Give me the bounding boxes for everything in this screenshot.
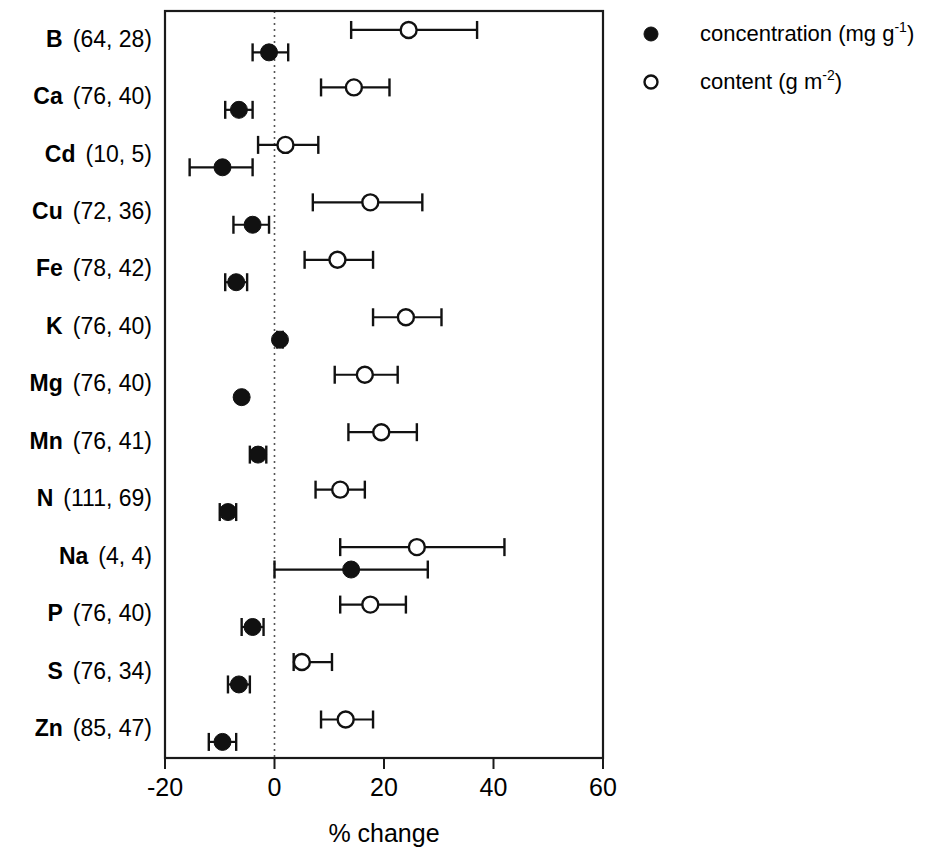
concentration-marker xyxy=(250,446,267,463)
category-count: (78, 42) xyxy=(73,255,152,281)
concentration-marker xyxy=(244,216,261,233)
legend-filled-circle-icon xyxy=(644,27,658,41)
category-symbol: Fe xyxy=(36,255,63,281)
category-symbol: Cu xyxy=(32,198,63,224)
x-tick-label: 40 xyxy=(480,773,508,801)
category-count: (111, 69) xyxy=(63,485,152,511)
concentration-marker xyxy=(230,676,247,693)
category-count: (76, 34) xyxy=(73,658,152,684)
category-label: Na(4, 4) xyxy=(59,543,152,569)
category-count: (10, 5) xyxy=(86,141,152,167)
concentration-marker xyxy=(219,504,236,521)
category-symbol: P xyxy=(47,600,62,626)
x-tick-label: 0 xyxy=(268,773,282,801)
content-marker xyxy=(329,252,345,268)
category-symbol: Cd xyxy=(45,141,76,167)
concentration-marker xyxy=(230,101,247,118)
x-tick-label: 20 xyxy=(370,773,398,801)
content-marker xyxy=(373,424,389,440)
category-label: Cu(72, 36) xyxy=(32,198,152,224)
concentration-marker xyxy=(214,733,231,750)
legend-label-main: concentration (mg g xyxy=(700,21,894,46)
category-symbol: Ca xyxy=(33,83,63,109)
category-count: (64, 28) xyxy=(73,26,152,52)
content-marker xyxy=(338,712,354,728)
concentration-row xyxy=(250,446,267,464)
legend-label-tail: ) xyxy=(907,21,914,46)
concentration-marker xyxy=(343,561,360,578)
category-label: Zn(85, 47) xyxy=(35,715,152,741)
concentration-marker xyxy=(261,44,278,61)
content-marker xyxy=(332,482,348,498)
content-marker xyxy=(398,309,414,325)
category-count: (72, 36) xyxy=(73,198,152,224)
category-count: (76, 40) xyxy=(73,600,152,626)
legend-label: concentration (mg g-1) xyxy=(700,19,914,46)
category-symbol: S xyxy=(47,658,62,684)
forest-plot-svg: -200204060 % change B(64, 28)Ca(76, 40)C… xyxy=(0,0,946,857)
content-marker xyxy=(362,597,378,613)
content-marker xyxy=(346,79,362,95)
category-symbol: Zn xyxy=(35,715,63,741)
category-label: B(64, 28) xyxy=(46,26,152,52)
category-label: Mn(76, 41) xyxy=(30,428,152,454)
category-label: Cd(10, 5) xyxy=(45,141,152,167)
legend-label-exponent: -2 xyxy=(822,67,835,83)
content-marker xyxy=(401,22,417,38)
legend-label-main: content (g m xyxy=(700,69,822,94)
content-marker xyxy=(362,194,378,210)
x-axis-label: % change xyxy=(328,819,439,847)
category-count: (76, 40) xyxy=(73,370,152,396)
content-marker xyxy=(277,137,293,153)
concentration-marker xyxy=(244,618,261,635)
category-count: (76, 40) xyxy=(73,83,152,109)
content-marker xyxy=(409,539,425,555)
category-count: (4, 4) xyxy=(98,543,152,569)
category-count: (76, 40) xyxy=(73,313,152,339)
concentration-marker xyxy=(228,274,245,291)
category-count: (85, 47) xyxy=(73,715,152,741)
content-marker xyxy=(294,654,310,670)
concentration-row xyxy=(233,389,250,406)
category-label: Ca(76, 40) xyxy=(33,83,152,109)
legend-label-tail: ) xyxy=(835,69,842,94)
x-tick-label: 60 xyxy=(589,773,617,801)
concentration-marker xyxy=(271,331,288,348)
category-symbol: Mn xyxy=(30,428,63,454)
concentration-marker xyxy=(233,389,250,406)
x-tick-label: -20 xyxy=(147,773,183,801)
chart-figure: -200204060 % change B(64, 28)Ca(76, 40)C… xyxy=(0,0,946,857)
category-symbol: Na xyxy=(59,543,89,569)
category-symbol: B xyxy=(46,26,63,52)
category-symbol: Mg xyxy=(30,370,63,396)
concentration-marker xyxy=(214,159,231,176)
legend-open-circle-icon xyxy=(645,76,658,89)
legend-label: content (g m-2) xyxy=(700,67,842,94)
content-marker xyxy=(357,367,373,383)
category-label: K(76, 40) xyxy=(46,313,152,339)
category-symbol: N xyxy=(37,485,54,511)
category-count: (76, 41) xyxy=(73,428,152,454)
legend-label-exponent: -1 xyxy=(894,19,907,35)
category-label: Mg(76, 40) xyxy=(30,370,152,396)
category-label: Fe(78, 42) xyxy=(36,255,152,281)
concentration-row xyxy=(271,331,288,349)
concentration-row xyxy=(219,503,236,521)
category-symbol: K xyxy=(46,313,63,339)
